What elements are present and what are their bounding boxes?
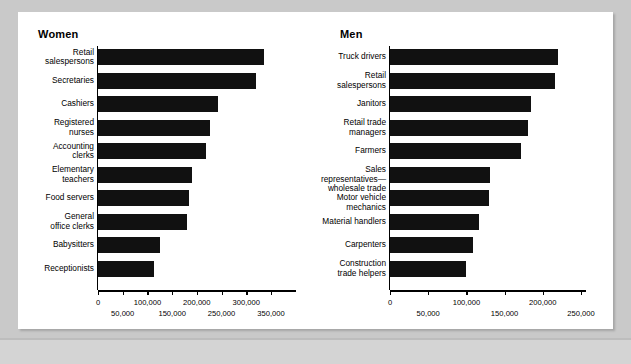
men-bar xyxy=(390,96,531,112)
bar-row: Food servers xyxy=(18,187,318,211)
chart-women-value-axis: 050,000100,000150,000200,000250,000300,0… xyxy=(98,290,296,330)
bar-row: Retail salespersons xyxy=(318,70,613,94)
bottom-band xyxy=(0,340,631,364)
axis-tick xyxy=(581,290,582,295)
women-category-label: Accounting clerks xyxy=(18,142,94,161)
bar-row: Accounting clerks xyxy=(18,140,318,164)
axis-tick-label: 100,000 xyxy=(453,298,480,307)
axis-tick-label: 0 xyxy=(388,298,392,307)
axis-tick-label: 200,000 xyxy=(183,298,210,307)
axis-tick-label: 100,000 xyxy=(134,298,161,307)
women-category-label: Retail salespersons xyxy=(18,48,94,67)
figure-panel: Women Retail salespersonsSecretariesCash… xyxy=(18,12,613,329)
bar-row: Retail salespersons xyxy=(18,46,318,70)
bar-row: Elementary teachers xyxy=(18,164,318,188)
bar-row: Babysitters xyxy=(18,234,318,258)
axis-tick-label: 150,000 xyxy=(158,309,185,318)
bar-row: Receptionists xyxy=(18,258,318,282)
axis-tick-label: 50,000 xyxy=(111,309,134,318)
women-category-label: Secretaries xyxy=(18,76,94,86)
men-category-label: Truck drivers xyxy=(318,52,386,62)
bar-row: Secretaries xyxy=(18,70,318,94)
bar-row: Carpenters xyxy=(318,234,613,258)
axis-tick xyxy=(390,290,391,295)
women-bar xyxy=(98,96,218,112)
axis-tick xyxy=(222,290,223,295)
bar-row: Sales representatives— wholesale trade xyxy=(318,164,613,188)
men-category-label: Motor vehicle mechanics xyxy=(318,193,386,212)
women-bar xyxy=(98,49,264,65)
men-bar xyxy=(390,167,490,183)
bar-row: Retail trade managers xyxy=(318,117,613,141)
women-category-label: Food servers xyxy=(18,193,94,203)
women-bar xyxy=(98,190,189,206)
women-category-label: General office clerks xyxy=(18,212,94,231)
chart-men-title: Men xyxy=(340,28,363,40)
men-category-label: Retail salespersons xyxy=(318,71,386,90)
men-bar xyxy=(390,190,489,206)
bar-row: Construction trade helpers xyxy=(318,258,613,282)
women-category-label: Registered nurses xyxy=(18,118,94,137)
women-category-label: Receptionists xyxy=(18,264,94,274)
men-bar xyxy=(390,120,528,136)
axis-tick xyxy=(466,290,467,295)
axis-tick-label: 250,000 xyxy=(567,309,594,318)
axis-tick-label: 50,000 xyxy=(417,309,440,318)
women-bar xyxy=(98,120,210,136)
women-bar xyxy=(98,237,160,253)
axis-tick xyxy=(172,290,173,295)
women-category-label: Elementary teachers xyxy=(18,165,94,184)
bar-row: Janitors xyxy=(318,93,613,117)
men-bar xyxy=(390,73,555,89)
axis-tick-label: 0 xyxy=(96,298,100,307)
axis-tick xyxy=(147,290,148,295)
chart-women-plot: Retail salespersonsSecretariesCashiersRe… xyxy=(18,46,318,296)
men-bar xyxy=(390,214,479,230)
women-bar xyxy=(98,214,187,230)
men-bar xyxy=(390,143,521,159)
figure-page: Women Retail salespersonsSecretariesCash… xyxy=(0,0,631,364)
bar-row: Farmers xyxy=(318,140,613,164)
bar-row: Cashiers xyxy=(18,93,318,117)
axis-tick xyxy=(123,290,124,295)
bar-row: Registered nurses xyxy=(18,117,318,141)
axis-tick xyxy=(428,290,429,295)
women-bar xyxy=(98,167,192,183)
women-bar xyxy=(98,143,206,159)
chart-men: Men Truck driversRetail salespersonsJani… xyxy=(318,12,613,329)
chart-women-bars: Retail salespersonsSecretariesCashiersRe… xyxy=(18,46,318,281)
chart-women-title: Women xyxy=(38,28,79,40)
men-category-label: Carpenters xyxy=(318,240,386,250)
axis-tick-label: 300,000 xyxy=(233,298,260,307)
men-bar xyxy=(390,237,473,253)
chart-men-value-axis: 050,000100,000150,000200,000250,000 xyxy=(390,290,586,330)
men-category-label: Material handlers xyxy=(318,217,386,227)
bar-row: Material handlers xyxy=(318,211,613,235)
axis-tick-label: 200,000 xyxy=(529,298,556,307)
chart-men-plot: Truck driversRetail salespersonsJanitors… xyxy=(318,46,613,296)
bar-row: General office clerks xyxy=(18,211,318,235)
bar-row: Motor vehicle mechanics xyxy=(318,187,613,211)
women-bar xyxy=(98,73,256,89)
axis-tick-label: 350,000 xyxy=(257,309,284,318)
men-bar xyxy=(390,49,558,65)
chart-women: Women Retail salespersonsSecretariesCash… xyxy=(18,12,318,329)
axis-tick xyxy=(543,290,544,295)
women-category-label: Babysitters xyxy=(18,240,94,250)
axis-tick xyxy=(271,290,272,295)
axis-tick xyxy=(505,290,506,295)
men-category-label: Janitors xyxy=(318,99,386,109)
men-category-label: Farmers xyxy=(318,146,386,156)
axis-tick-label: 250,000 xyxy=(208,309,235,318)
bar-row: Truck drivers xyxy=(318,46,613,70)
women-bar xyxy=(98,261,154,277)
women-category-label: Cashiers xyxy=(18,99,94,109)
axis-tick xyxy=(246,290,247,295)
men-category-label: Construction trade helpers xyxy=(318,259,386,278)
axis-tick xyxy=(197,290,198,295)
chart-men-axis-line xyxy=(390,290,586,292)
axis-tick-label: 150,000 xyxy=(491,309,518,318)
men-bar xyxy=(390,261,466,277)
axis-tick xyxy=(98,290,99,295)
men-category-label: Retail trade managers xyxy=(318,118,386,137)
